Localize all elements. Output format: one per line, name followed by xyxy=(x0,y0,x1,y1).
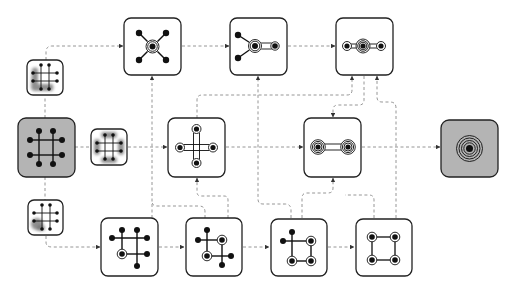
edge-bottom-2-to-top-2 xyxy=(152,201,205,218)
edge-cluster-bottom-to-bottom-1 xyxy=(46,236,100,247)
output-graph-box xyxy=(441,120,498,177)
edge-top-3-to-mid-2 xyxy=(333,76,364,117)
top-step-2-box xyxy=(230,18,287,75)
cluster-hint-top-box xyxy=(27,60,63,95)
bottom-step-1-box xyxy=(101,218,158,276)
cluster-hint-middle-box xyxy=(91,129,127,165)
bottom-step-4-box xyxy=(356,219,412,276)
cluster-hint-bottom-box xyxy=(28,200,63,235)
edge-mid-1-to-top-3 xyxy=(197,76,352,118)
top-step-3-box xyxy=(336,18,393,75)
edge-bottom-4-up xyxy=(345,195,374,218)
bottom-step-2-box xyxy=(186,218,242,276)
edge-bottom-3-to-top-2 xyxy=(258,76,291,218)
edge-bottom-3-to-mid-2 xyxy=(302,178,333,218)
middle-step-2-box xyxy=(304,118,361,177)
input-graph-box xyxy=(18,118,75,177)
top-step-1-box xyxy=(124,18,181,75)
middle-step-1-box xyxy=(168,118,225,177)
bottom-step-3-box xyxy=(271,219,327,276)
process-diagram xyxy=(0,0,514,297)
edge-cluster-top-to-top-1 xyxy=(46,46,123,60)
edge-bottom-2-to-mid-1 xyxy=(197,178,228,218)
